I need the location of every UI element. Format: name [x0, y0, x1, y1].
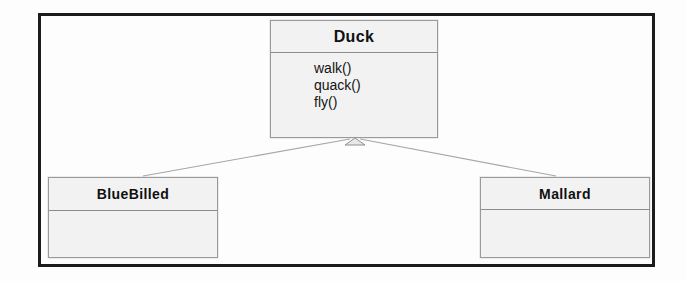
class-box-duck[interactable]: Duck walk() quack() fly() — [270, 20, 438, 138]
class-name-duck: Duck — [271, 21, 437, 53]
class-operations-duck: walk() quack() fly() — [271, 53, 437, 137]
class-box-bluebilled[interactable]: BlueBilled — [48, 177, 218, 258]
operation-walk: walk() — [314, 60, 437, 77]
class-box-mallard[interactable]: Mallard — [480, 177, 650, 258]
class-operations-bluebilled — [49, 211, 217, 257]
class-name-mallard: Mallard — [481, 178, 649, 210]
class-operations-mallard — [481, 210, 649, 257]
class-name-bluebilled: BlueBilled — [49, 178, 217, 211]
operation-fly: fly() — [314, 94, 437, 111]
diagram-canvas: Duck walk() quack() fly() BlueBilled Mal… — [0, 0, 687, 281]
operation-quack: quack() — [314, 77, 437, 94]
